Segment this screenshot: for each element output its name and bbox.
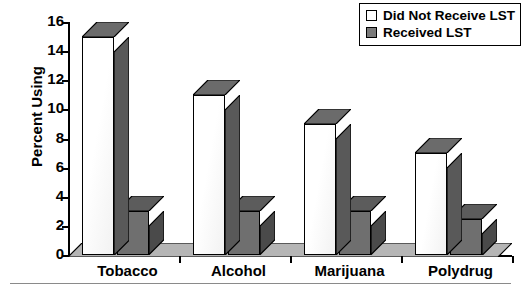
- x-label-marijuana: Marijuana: [314, 262, 384, 279]
- x-tick-mark: [179, 256, 181, 263]
- footer-divider: [10, 283, 511, 284]
- bar-chart-figure: Percent Using 0246810121416 TobaccoAlcoh…: [0, 0, 521, 293]
- y-tick-label: 0: [56, 244, 64, 264]
- bar-top-face: [193, 80, 240, 95]
- chart-legend: Did Not Receive LST Received LST: [359, 3, 521, 46]
- legend-swatch-dark-icon: [366, 27, 377, 38]
- y-tick-label: 10: [47, 98, 64, 118]
- y-axis-title: Percent Using: [28, 37, 45, 197]
- bar-top-face: [415, 138, 462, 153]
- y-tick-label: 16: [47, 11, 64, 31]
- legend-entry-did-not-receive-lst: Did Not Receive LST: [366, 7, 515, 24]
- bar-tobacco-did-not-receive-lst: [82, 37, 114, 255]
- bar-side-face: [114, 37, 129, 255]
- bar-side-face: [260, 211, 275, 255]
- x-label-polydrug: Polydrug: [428, 262, 493, 279]
- bar-side-face: [336, 124, 351, 255]
- x-tick-mark: [401, 256, 403, 263]
- y-tick-label: 4: [56, 186, 64, 206]
- legend-label: Did Not Receive LST: [383, 8, 515, 23]
- bar-front-face: [82, 37, 114, 255]
- bar-marijuana-did-not-receive-lst: [304, 124, 336, 255]
- bar-side-face: [482, 219, 497, 255]
- bar-polydrug-did-not-receive-lst: [415, 153, 447, 255]
- bar-side-face: [371, 211, 386, 255]
- y-tick-label: 2: [56, 215, 64, 235]
- y-tick-label: 12: [47, 69, 64, 89]
- plot-area: 0246810121416: [68, 22, 512, 256]
- legend-entry-received-lst: Received LST: [366, 24, 515, 41]
- x-label-tobacco: Tobacco: [97, 262, 158, 279]
- bar-side-face: [149, 211, 164, 255]
- legend-swatch-light-icon: [366, 10, 377, 21]
- legend-label: Received LST: [383, 25, 472, 40]
- x-label-alcohol: Alcohol: [211, 262, 266, 279]
- bar-side-face: [225, 95, 240, 255]
- bar-side-face: [447, 153, 462, 255]
- y-tick-label: 14: [47, 40, 64, 60]
- x-tick-mark: [290, 256, 292, 263]
- y-tick-label: 6: [56, 157, 64, 177]
- y-axis-line: [68, 22, 70, 257]
- bar-front-face: [304, 124, 336, 255]
- y-tick-label: 8: [56, 128, 64, 148]
- bar-top-face: [82, 22, 129, 37]
- bar-front-face: [193, 95, 225, 255]
- x-tick-mark: [512, 256, 514, 263]
- bar-top-face: [304, 109, 351, 124]
- bar-alcohol-did-not-receive-lst: [193, 95, 225, 255]
- bar-front-face: [415, 153, 447, 255]
